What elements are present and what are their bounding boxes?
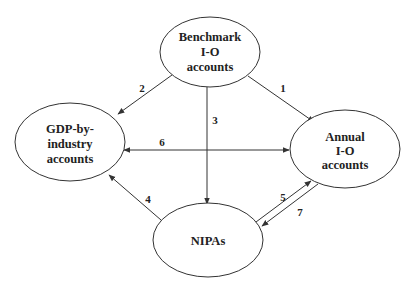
edge-4-arrow bbox=[109, 175, 161, 220]
edge-label-3: 3 bbox=[212, 114, 218, 126]
edge-label-4: 4 bbox=[145, 193, 151, 205]
node-gdp-line-2: industry bbox=[47, 137, 93, 151]
edge-label-2: 2 bbox=[139, 82, 145, 94]
node-annual-io-accounts: Annual I-O accounts bbox=[290, 110, 400, 188]
node-benchmark-line-2: I-O bbox=[201, 45, 220, 59]
edge-label-1: 1 bbox=[280, 82, 286, 94]
node-gdp-line-1: GDP-by- bbox=[46, 122, 94, 136]
node-benchmark-line-1: Benchmark bbox=[179, 30, 242, 44]
edge-2-arrow bbox=[118, 75, 172, 114]
node-nipas: NIPAs bbox=[153, 203, 263, 277]
node-gdp-by-industry-accounts: GDP-by- industry accounts bbox=[15, 103, 125, 181]
edge-label-7: 7 bbox=[297, 206, 303, 218]
node-benchmark-io-accounts: Benchmark I-O accounts bbox=[160, 17, 260, 87]
edge-label-6: 6 bbox=[159, 136, 165, 148]
node-annual-line-1: Annual bbox=[325, 130, 365, 144]
node-benchmark-line-3: accounts bbox=[187, 60, 234, 74]
node-annual-line-2: I-O bbox=[336, 144, 355, 158]
flow-diagram: 1 2 3 4 6 5 7 Benchmark I-O accounts GDP… bbox=[0, 0, 416, 289]
node-gdp-line-3: accounts bbox=[47, 152, 94, 166]
edge-label-5: 5 bbox=[280, 191, 286, 203]
edge-7-arrow bbox=[262, 184, 318, 226]
node-nipas-line-1: NIPAs bbox=[191, 234, 226, 248]
node-annual-line-3: accounts bbox=[322, 158, 369, 172]
